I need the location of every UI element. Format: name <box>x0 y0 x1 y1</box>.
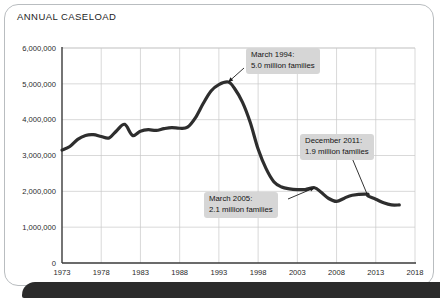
svg-text:3,000,000: 3,000,000 <box>22 151 56 160</box>
x-axis-tick-labels: 1973197819831988199319982003200820132018 <box>54 268 424 277</box>
svg-text:2008: 2008 <box>328 268 345 277</box>
annotation-peak-1994-line1: March 1994: <box>251 50 315 61</box>
annotation-dec-2011-line2: 1.9 million families <box>305 147 369 158</box>
svg-text:1,000,000: 1,000,000 <box>22 223 56 232</box>
annotation-march-2005-line2: 2.1 million families <box>209 205 273 216</box>
annotation-peak-1994-line2: 5.0 million families <box>251 61 315 72</box>
svg-text:1993: 1993 <box>210 268 227 277</box>
svg-text:2013: 2013 <box>367 268 384 277</box>
svg-text:1978: 1978 <box>93 268 110 277</box>
annotation-march-2005: March 2005: 2.1 million families <box>204 192 278 218</box>
svg-text:1983: 1983 <box>132 268 149 277</box>
svg-text:4,000,000: 4,000,000 <box>22 115 56 124</box>
svg-text:1998: 1998 <box>250 268 267 277</box>
svg-text:2003: 2003 <box>289 268 306 277</box>
annotation-dec-2011: December 2011: 1.9 million families <box>300 134 374 160</box>
svg-text:1988: 1988 <box>171 268 188 277</box>
svg-text:2,000,000: 2,000,000 <box>22 187 56 196</box>
annotation-march-2005-line1: March 2005: <box>209 194 273 205</box>
svg-text:2018: 2018 <box>407 268 424 277</box>
annotation-dec-2011-line1: December 2011: <box>305 136 369 147</box>
svg-text:1973: 1973 <box>54 268 71 277</box>
svg-text:5,000,000: 5,000,000 <box>22 80 56 89</box>
svg-text:0: 0 <box>52 259 56 268</box>
chart-figure: ANNUAL CASELOAD 01,000,0002,000,0003,000… <box>0 0 440 298</box>
y-axis-tick-labels: 01,000,0002,000,0003,000,0004,000,0005,0… <box>22 44 56 268</box>
annotation-peak-1994: March 1994: 5.0 million families <box>246 48 320 74</box>
svg-text:6,000,000: 6,000,000 <box>22 44 56 53</box>
line-chart-plot: 01,000,0002,000,0003,000,0004,000,0005,0… <box>0 0 440 298</box>
